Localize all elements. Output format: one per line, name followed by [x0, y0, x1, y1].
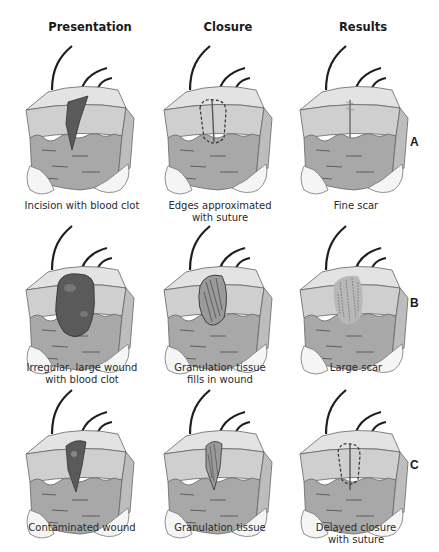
panel-c-closure: Granulation tissue [150, 382, 290, 552]
skin-large-clot-illustration [22, 218, 142, 378]
panel-b-presentation: Irregular, large wound with blood clot [12, 218, 152, 398]
skin-contaminated-illustration [22, 382, 142, 542]
panel-a-presentation: Incision with blood clot [12, 38, 152, 218]
caption-delayed-closure: Delayed closure with suture [286, 522, 426, 546]
skin-sutured-illustration [160, 38, 280, 198]
skin-fine-scar-illustration [296, 38, 416, 198]
skin-granulation-illustration [160, 218, 280, 378]
skin-granulation-tissue-illustration [160, 382, 280, 542]
column-header-closure: Closure [158, 20, 298, 34]
caption-incision-with-blood-clot: Incision with blood clot [12, 200, 152, 212]
skin-incision-clot-illustration [22, 38, 142, 198]
caption-contaminated-wound: Contaminated wound [12, 522, 152, 534]
skin-large-scar-illustration [296, 218, 416, 378]
panel-b-results: Large scar [286, 218, 426, 398]
column-header-results: Results [293, 20, 433, 34]
caption-granulation-tissue: Granulation tissue [150, 522, 290, 534]
panel-c-presentation: Contaminated wound [12, 382, 152, 552]
caption-fine-scar: Fine scar [286, 200, 426, 212]
row-label-b: B [410, 296, 419, 310]
panel-a-results: Fine scar [286, 38, 426, 218]
panel-c-results: Delayed closure with suture [286, 382, 426, 552]
row-label-a: A [410, 135, 419, 149]
panel-b-closure: Granulation tissue fills in wound [150, 218, 290, 398]
skin-delayed-suture-illustration [296, 382, 416, 542]
panel-a-closure: Edges approximated with suture [150, 38, 290, 218]
column-header-presentation: Presentation [20, 20, 160, 34]
row-label-c: C [410, 458, 419, 472]
caption-large-scar: Large scar [286, 362, 426, 374]
